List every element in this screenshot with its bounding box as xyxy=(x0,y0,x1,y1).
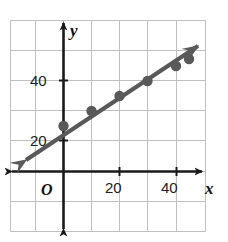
grid-lines xyxy=(11,21,206,232)
y-tick-label-20: 20 xyxy=(30,133,47,148)
coordinate-plane xyxy=(0,0,228,242)
data-point xyxy=(58,121,68,131)
origin-label: O xyxy=(41,182,53,198)
graph-figure: y x O 20 40 20 40 xyxy=(0,0,228,242)
y-tick-label-40: 40 xyxy=(30,73,47,88)
x-tick-label-20: 20 xyxy=(105,180,122,195)
plotted-line xyxy=(26,46,198,160)
data-point xyxy=(86,106,96,116)
x-axis-label: x xyxy=(205,180,214,197)
data-point xyxy=(171,61,181,71)
data-point xyxy=(114,91,124,101)
y-axis-label: y xyxy=(70,22,78,39)
x-tick-label-40: 40 xyxy=(161,180,178,195)
data-point xyxy=(184,54,194,64)
data-point xyxy=(142,76,152,86)
axes xyxy=(12,23,202,229)
